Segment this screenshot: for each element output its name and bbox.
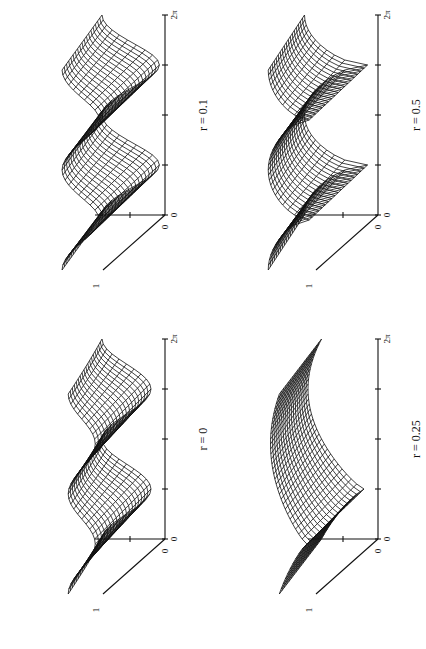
panel-r-0: 2π001r = 0 [0, 325, 213, 649]
surface-plot: 2π001r = 0.1 [0, 0, 213, 325]
x-tick-0: 0 [382, 212, 392, 217]
x-tick-0: 0 [169, 212, 179, 217]
panel-label: r = 0 [196, 428, 210, 451]
x-tick-2pi: 2π [382, 334, 392, 344]
depth-tick-0: 0 [373, 548, 383, 553]
x-tick-0: 0 [169, 536, 179, 541]
x-tick-2pi: 2π [382, 10, 392, 20]
depth-tick-1: 1 [304, 284, 314, 289]
depth-tick-1: 1 [91, 608, 101, 613]
surface-plot: 2π001r = 0.5 [213, 0, 426, 325]
figure: 2π001r = 0.1 2π001r = 0.5 2π001r = 0 2π0… [0, 0, 426, 649]
panel-r-0.5: 2π001r = 0.5 [213, 0, 426, 325]
surface-plot: 2π001r = 0.25 [213, 325, 426, 649]
panel-label: r = 0.25 [409, 420, 423, 458]
depth-tick-0: 0 [160, 224, 170, 229]
x-tick-0: 0 [382, 536, 392, 541]
panel-label: r = 0.5 [409, 99, 423, 131]
depth-tick-1: 1 [91, 284, 101, 289]
depth-tick-0: 0 [373, 224, 383, 229]
panel-r-0.25: 2π001r = 0.25 [213, 325, 426, 649]
x-tick-2pi: 2π [169, 334, 179, 344]
panel-label: r = 0.1 [196, 99, 210, 131]
panel-r-0.1: 2π001r = 0.1 [0, 0, 213, 325]
depth-tick-1: 1 [304, 608, 314, 613]
surface-plot: 2π001r = 0 [0, 325, 213, 649]
depth-tick-0: 0 [160, 548, 170, 553]
x-tick-2pi: 2π [169, 10, 179, 20]
